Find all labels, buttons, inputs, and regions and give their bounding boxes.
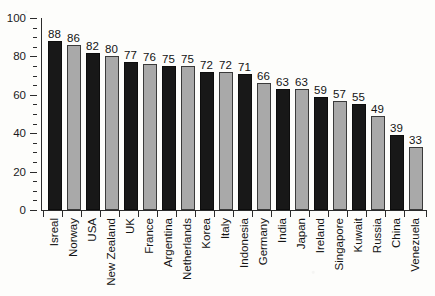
bar[interactable]: 76 (143, 64, 157, 210)
bar[interactable]: 66 (257, 83, 271, 210)
x-axis-category-label: Italy (220, 218, 232, 239)
x-axis-category-label: Singapore (334, 218, 346, 270)
bar-value-label: 49 (371, 103, 384, 115)
x-label-cell: Netherlands (178, 218, 197, 296)
y-tick-minor (33, 124, 37, 125)
bar[interactable]: 82 (86, 53, 100, 210)
x-tick (406, 210, 425, 217)
x-axis-category-label: Norway (68, 218, 80, 257)
x-label-cell: Indonesia (235, 218, 254, 296)
x-axis-category-label: Netherlands (182, 218, 194, 280)
x-label-cell: Argentina (159, 218, 178, 296)
bar-value-label: 63 (276, 76, 289, 88)
y-tick-label: 60 (13, 89, 26, 101)
x-label-cell: UK (121, 218, 140, 296)
y-tick-minor (33, 152, 37, 153)
x-label-cell: France (140, 218, 159, 296)
bar[interactable]: 33 (409, 147, 423, 210)
bar[interactable]: 72 (219, 72, 233, 210)
bar-value-label: 57 (333, 88, 346, 100)
bar-value-label: 82 (86, 40, 99, 52)
x-label-cell: Norway (64, 218, 83, 296)
bar[interactable]: 55 (352, 104, 366, 210)
bar-slot: 71 (235, 18, 254, 210)
y-tick-label: 0 (20, 204, 26, 216)
bar-slot: 49 (368, 18, 387, 210)
bar-slot: 39 (387, 18, 406, 210)
bar-value-label: 55 (352, 91, 365, 103)
bar-slot: 63 (292, 18, 311, 210)
bar[interactable]: 71 (238, 74, 252, 210)
bar-slot: 66 (254, 18, 273, 210)
bar-value-label: 59 (314, 84, 327, 96)
y-tick-major (30, 95, 37, 96)
x-axis-category-label: UK (125, 218, 137, 234)
x-axis-category-label: Isreal (49, 218, 61, 246)
x-axis-category-label: India (277, 218, 289, 243)
bar-slot: 59 (311, 18, 330, 210)
y-tick-major (30, 210, 37, 211)
bar-slot: 77 (121, 18, 140, 210)
bar[interactable]: 75 (162, 66, 176, 210)
bar-value-label: 33 (409, 134, 422, 146)
x-label-cell: Korea (197, 218, 216, 296)
bar[interactable]: 80 (105, 56, 119, 210)
x-label-cell: China (387, 218, 406, 296)
x-axis-category-label: Argentina (163, 218, 175, 267)
bar[interactable]: 63 (295, 89, 309, 210)
y-tick-minor (33, 143, 37, 144)
x-axis-category-label: Germany (258, 218, 270, 265)
bar-value-label: 39 (390, 122, 403, 134)
bar-slot: 33 (406, 18, 425, 210)
x-label-cell: New Zealand (102, 218, 121, 296)
y-tick-major (30, 172, 37, 173)
bar-slot: 72 (216, 18, 235, 210)
bar-slot: 75 (178, 18, 197, 210)
x-axis-ticks (41, 210, 425, 217)
y-tick-minor (33, 37, 37, 38)
y-tick-label: 100 (7, 12, 26, 24)
x-axis-category-label: Indonesia (239, 218, 251, 268)
y-tick-major (30, 56, 37, 57)
bar-value-label: 88 (48, 28, 61, 40)
x-axis-category-label: New Zealand (106, 218, 118, 286)
x-axis-category-label: Korea (201, 218, 213, 249)
y-tick-minor (33, 200, 37, 201)
bar-series: 8886828077767575727271666363595755493933 (41, 18, 425, 210)
y-tick-minor (33, 85, 37, 86)
x-axis-category-label: Kuwait (353, 218, 365, 253)
y-tick-label: 80 (13, 50, 26, 62)
bar[interactable]: 39 (390, 135, 404, 210)
y-tick-minor (33, 191, 37, 192)
bar[interactable]: 75 (181, 66, 195, 210)
bar[interactable]: 72 (200, 72, 214, 210)
bar-slot: 82 (83, 18, 102, 210)
bar[interactable]: 86 (67, 45, 81, 210)
bar[interactable]: 88 (48, 41, 62, 210)
bar-value-label: 72 (219, 59, 232, 71)
x-axis-category-label: Ireland (315, 218, 327, 253)
bar-chart: 020406080100 888682807776757572727166636… (0, 0, 435, 296)
x-label-cell: Kuwait (349, 218, 368, 296)
x-axis-category-label: China (391, 218, 403, 248)
x-axis-category-label: France (144, 218, 156, 254)
bar-value-label: 80 (105, 43, 118, 55)
x-label-cell: Singapore (330, 218, 349, 296)
bar-slot: 76 (140, 18, 159, 210)
bar-value-label: 75 (181, 53, 194, 65)
y-tick-minor (33, 47, 37, 48)
y-tick-minor (33, 162, 37, 163)
x-label-cell: Italy (216, 218, 235, 296)
bar[interactable]: 49 (371, 116, 385, 210)
bar[interactable]: 77 (124, 62, 138, 210)
bar-slot: 80 (102, 18, 121, 210)
x-axis-labels: IsrealNorwayUSANew ZealandUKFranceArgent… (41, 218, 425, 296)
y-tick-minor (33, 104, 37, 105)
x-label-cell: India (273, 218, 292, 296)
x-axis-category-label: Russia (372, 218, 384, 253)
y-tick-minor (33, 181, 37, 182)
bar[interactable]: 59 (314, 97, 328, 210)
bar[interactable]: 63 (276, 89, 290, 210)
bar[interactable]: 57 (333, 101, 347, 210)
x-label-cell: Ireland (311, 218, 330, 296)
